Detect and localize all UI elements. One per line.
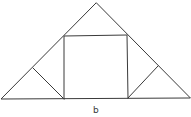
triangle-diagram: b <box>0 0 191 117</box>
left-inner-segment <box>33 68 64 99</box>
outer-triangle <box>1 3 190 99</box>
base-label: b <box>93 105 99 115</box>
right-inner-segment <box>128 66 158 98</box>
inscribed-square <box>64 35 128 99</box>
